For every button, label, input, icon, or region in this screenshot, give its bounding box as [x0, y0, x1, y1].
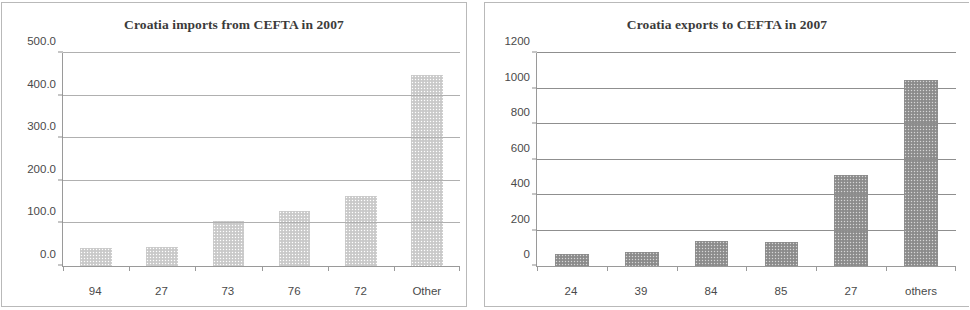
x-axis-tick-mark — [63, 266, 64, 271]
bar-slot — [328, 53, 394, 266]
y-axis-tick-mark — [58, 94, 63, 95]
y-axis-tick-label: 0.0 — [40, 248, 63, 260]
gridline — [63, 52, 460, 53]
gridline — [537, 123, 956, 124]
chart-panel-imports: Croatia imports from CEFTA in 2007 0.010… — [1, 2, 467, 307]
bar — [765, 242, 799, 266]
y-axis-tick-label: 600 — [511, 142, 537, 154]
y-axis-tick-label: 100.0 — [27, 205, 63, 217]
gridline — [537, 88, 956, 89]
y-axis-tick-label: 1000 — [504, 71, 537, 83]
x-axis-category-label: 73 — [195, 285, 261, 297]
plot-area-imports: 0.0100.0200.0300.0400.0500.0 — [62, 53, 460, 267]
gridline — [537, 194, 956, 195]
plot-wrapper-imports: 0.0100.0200.0300.0400.0500.0 — [2, 3, 466, 306]
y-axis-tick-label: 300.0 — [27, 120, 63, 132]
x-axis-category-label: 27 — [128, 285, 194, 297]
x-axis-labels-imports: 9427737672Other — [62, 285, 460, 297]
bar-series-exports — [537, 53, 956, 266]
x-axis-category-label: 24 — [536, 285, 606, 297]
y-axis-tick-mark — [532, 158, 537, 159]
y-axis-tick-label: 200.0 — [27, 163, 63, 175]
bar-slot — [537, 53, 607, 266]
plot-area-exports: 020040060080010001200 — [536, 53, 956, 267]
gridline — [63, 95, 460, 96]
y-axis-tick-mark — [532, 229, 537, 230]
gridline — [537, 52, 956, 53]
bar-slot — [195, 53, 261, 266]
y-axis-tick-label: 400.0 — [27, 78, 63, 90]
y-axis-tick-mark — [58, 52, 63, 53]
x-axis-category-label: 85 — [746, 285, 816, 297]
gridline — [63, 180, 460, 181]
x-axis-tick-mark — [816, 266, 817, 271]
x-axis-category-label: 72 — [327, 285, 393, 297]
y-axis-tick-label: 800 — [511, 106, 537, 118]
gridline — [63, 222, 460, 223]
charts-page: Croatia imports from CEFTA in 2007 0.010… — [0, 0, 970, 310]
x-axis-category-label: 27 — [816, 285, 886, 297]
y-axis-tick-label: 0 — [524, 248, 537, 260]
y-axis-tick-mark — [58, 265, 63, 266]
y-axis-tick-label: 1200 — [504, 35, 537, 47]
x-axis-tick-mark — [195, 266, 196, 271]
plot-wrapper-exports: 020040060080010001200 — [485, 3, 969, 306]
bar — [834, 175, 868, 266]
bar-slot — [677, 53, 747, 266]
y-axis-tick-mark — [532, 123, 537, 124]
x-axis-tick-mark — [677, 266, 678, 271]
bar-slot — [262, 53, 328, 266]
bar — [80, 248, 112, 266]
bar-slot — [394, 53, 460, 266]
y-axis-tick-label: 200 — [511, 213, 537, 225]
x-axis-tick-mark — [394, 266, 395, 271]
gridline — [537, 159, 956, 160]
x-axis-category-label: Other — [394, 285, 460, 297]
x-axis-category-label: others — [886, 285, 956, 297]
x-axis-tick-mark — [886, 266, 887, 271]
bar — [555, 254, 589, 266]
bar — [146, 247, 178, 266]
y-axis-tick-mark — [532, 87, 537, 88]
bar-slot — [816, 53, 886, 266]
x-axis-tick-mark — [955, 266, 956, 271]
chart-panel-exports: Croatia exports to CEFTA in 2007 0200400… — [484, 2, 969, 307]
bar-slot — [63, 53, 129, 266]
x-axis-category-label: 84 — [676, 285, 746, 297]
gridline — [537, 230, 956, 231]
bar-slot — [746, 53, 816, 266]
bar-series-imports — [63, 53, 460, 266]
y-axis-tick-mark — [58, 179, 63, 180]
x-axis-tick-mark — [129, 266, 130, 271]
bar-slot — [129, 53, 195, 266]
y-axis-tick-mark — [58, 137, 63, 138]
bar — [345, 196, 377, 266]
bar-slot — [607, 53, 677, 266]
y-axis-tick-label: 400 — [511, 177, 537, 189]
x-axis-labels-exports: 2439848527others — [536, 285, 956, 297]
bar — [411, 75, 443, 266]
y-axis-tick-mark — [58, 222, 63, 223]
x-axis-tick-mark — [459, 266, 460, 271]
x-axis-tick-mark — [537, 266, 538, 271]
bar — [904, 80, 938, 266]
bar — [279, 211, 311, 266]
y-axis-tick-label: 500.0 — [27, 35, 63, 47]
bar — [213, 221, 245, 266]
bar — [625, 252, 659, 266]
y-axis-tick-mark — [532, 52, 537, 53]
bar-slot — [886, 53, 956, 266]
x-axis-category-label: 94 — [62, 285, 128, 297]
x-axis-tick-mark — [328, 266, 329, 271]
y-axis-tick-mark — [532, 194, 537, 195]
x-axis-category-label: 76 — [261, 285, 327, 297]
bar — [695, 241, 729, 266]
x-axis-tick-mark — [607, 266, 608, 271]
x-axis-tick-mark — [746, 266, 747, 271]
gridline — [63, 137, 460, 138]
y-axis-tick-mark — [532, 265, 537, 266]
x-axis-tick-mark — [262, 266, 263, 271]
x-axis-category-label: 39 — [606, 285, 676, 297]
